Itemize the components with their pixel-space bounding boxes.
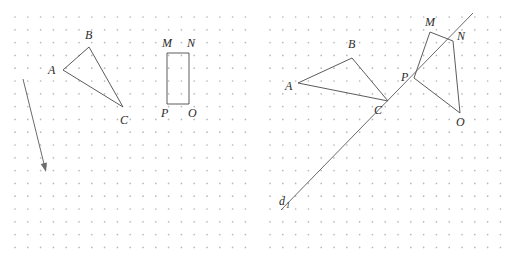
grid-dot xyxy=(232,208,234,210)
grid-dot xyxy=(142,93,144,95)
grid-dot xyxy=(91,234,93,236)
grid-dot xyxy=(474,67,476,69)
grid-dot xyxy=(269,170,271,172)
grid-dot xyxy=(168,234,170,236)
grid-dot xyxy=(91,55,93,57)
grid-dot xyxy=(219,42,221,44)
grid-dot xyxy=(308,247,310,249)
grid-dot xyxy=(65,55,67,57)
grid-dot xyxy=(474,157,476,159)
grid-dot xyxy=(410,29,412,31)
grid-dot xyxy=(423,119,425,121)
grid-dot xyxy=(65,234,67,236)
grid-dot xyxy=(359,131,361,133)
grid-dot xyxy=(372,16,374,18)
grid-dot xyxy=(500,42,502,44)
grid-dot xyxy=(193,183,195,185)
grid-dot xyxy=(129,221,131,223)
grid-dot xyxy=(359,80,361,82)
grid-dot xyxy=(27,234,29,236)
grid-dot xyxy=(269,183,271,185)
grid-dot xyxy=(320,208,322,210)
grid-dot xyxy=(384,119,386,121)
grid-dot xyxy=(219,170,221,172)
grid-dot xyxy=(423,67,425,69)
grid-dot xyxy=(232,144,234,146)
grid-dot xyxy=(410,119,412,121)
vertex-label-A: A xyxy=(47,63,56,77)
grid-dot xyxy=(65,195,67,197)
grid-dot xyxy=(295,247,297,249)
grid-dot xyxy=(436,195,438,197)
grid-dot xyxy=(359,119,361,121)
grid-dot xyxy=(410,157,412,159)
grid-dot xyxy=(206,183,208,185)
grid-dot xyxy=(53,93,55,95)
grid-dot xyxy=(308,42,310,44)
grid-dot xyxy=(500,195,502,197)
grid-dot xyxy=(448,234,450,236)
grid-dot xyxy=(308,157,310,159)
grid-dot xyxy=(308,221,310,223)
grid-dot xyxy=(461,144,463,146)
grid-dot xyxy=(320,183,322,185)
grid-dot xyxy=(27,221,29,223)
grid-dot xyxy=(40,80,42,82)
grid-dot xyxy=(104,144,106,146)
vertex-label-M: M xyxy=(161,36,173,50)
grid-dot xyxy=(168,157,170,159)
grid-dot xyxy=(27,170,29,172)
grid-dot xyxy=(181,195,183,197)
grid-dot xyxy=(65,183,67,185)
grid-dot xyxy=(423,131,425,133)
grid-dot xyxy=(117,144,119,146)
quadrilateral-mnop-image xyxy=(414,32,460,113)
grid-dot xyxy=(423,55,425,57)
grid-dot xyxy=(295,80,297,82)
grid-dot xyxy=(423,106,425,108)
grid-dot xyxy=(295,157,297,159)
grid-dot xyxy=(333,119,335,121)
grid-dot xyxy=(168,183,170,185)
grid-dot xyxy=(206,16,208,18)
grid-dot xyxy=(117,195,119,197)
grid-dot xyxy=(14,131,16,133)
grid-dot xyxy=(474,195,476,197)
grid-dot xyxy=(14,67,16,69)
grid-dot xyxy=(372,93,374,95)
grid-dot xyxy=(474,131,476,133)
grid-dot xyxy=(410,170,412,172)
grid-dot xyxy=(104,119,106,121)
grid-dot xyxy=(474,29,476,31)
grid-dot xyxy=(269,29,271,31)
grid-dot xyxy=(206,157,208,159)
grid-dot xyxy=(269,208,271,210)
grid-dot xyxy=(65,170,67,172)
grid-dot xyxy=(423,208,425,210)
grid-dot xyxy=(193,67,195,69)
grid-dot xyxy=(245,16,247,18)
grid-dot xyxy=(91,42,93,44)
grid-dot xyxy=(359,157,361,159)
grid-dot xyxy=(346,16,348,18)
grid-dot xyxy=(320,55,322,57)
grid-dot xyxy=(308,144,310,146)
grid-dot xyxy=(181,234,183,236)
grid-dot xyxy=(500,80,502,82)
grid-dot xyxy=(27,247,29,249)
grid-dot xyxy=(308,67,310,69)
grid-dot xyxy=(333,93,335,95)
grid-dot xyxy=(181,208,183,210)
grid-dot xyxy=(359,93,361,95)
grid-dot xyxy=(193,80,195,82)
grid-dot xyxy=(461,170,463,172)
grid-dot xyxy=(282,67,284,69)
grid-dot xyxy=(500,170,502,172)
grid-dot xyxy=(219,208,221,210)
grid-dot xyxy=(397,144,399,146)
grid-dot xyxy=(142,144,144,146)
grid-dot xyxy=(372,67,374,69)
grid-dot xyxy=(295,208,297,210)
grid-dot xyxy=(397,67,399,69)
grid-dot xyxy=(14,208,16,210)
